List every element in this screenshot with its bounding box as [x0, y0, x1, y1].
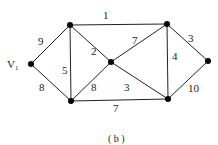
weight-c-e: 3	[124, 81, 130, 93]
weight-a-b: 5	[62, 64, 68, 76]
graph-diagram: V1 9 8 5 2 1 8 7 3 7 4 3 10 ( b )	[0, 0, 218, 145]
node-d	[164, 21, 170, 27]
node-a	[67, 22, 73, 28]
edge-v1-a	[31, 25, 70, 64]
edge-c-d	[111, 24, 167, 62]
weight-c-b: 8	[91, 81, 97, 93]
figure-caption: ( b )	[108, 133, 125, 145]
edge-c-e	[111, 62, 168, 99]
weight-a-d: 1	[103, 9, 109, 21]
node-b	[68, 98, 74, 104]
edge-a-b	[70, 25, 71, 101]
vertex-label-v1: V1	[7, 58, 19, 72]
weight-c-d: 7	[132, 34, 138, 46]
weight-v1-b: 8	[39, 81, 45, 93]
weight-b-e: 7	[113, 102, 119, 114]
weight-d-e: 4	[172, 50, 178, 62]
weight-v1-a: 9	[38, 35, 44, 47]
weight-d-f: 3	[188, 32, 194, 44]
node-v1	[28, 61, 34, 67]
weight-a-c: 2	[91, 45, 97, 57]
node-c	[108, 59, 114, 65]
node-f	[205, 58, 211, 64]
edge-d-e	[167, 24, 168, 99]
weight-e-f: 10	[188, 82, 200, 94]
node-e	[165, 96, 171, 102]
edge-b-e	[71, 99, 168, 101]
edge-a-d	[70, 24, 167, 25]
